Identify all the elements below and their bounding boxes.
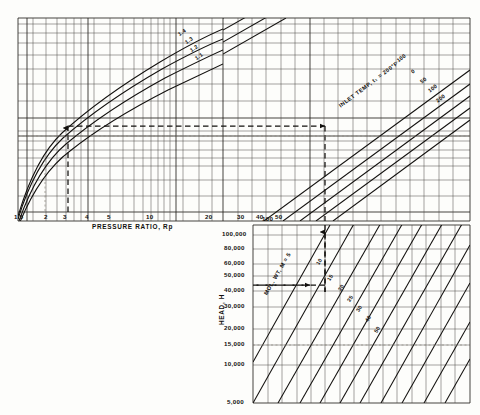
tick-pressure-ratio-1: 1.5 [14,214,24,220]
tick-pressure-ratio-10: 10 [146,214,153,220]
tick-head-60000: 60,000 [224,260,245,266]
tick-head-80000: 80,000 [224,245,245,251]
tick-pressure-ratio-50: 50 [275,214,282,220]
tick-head-15000: 15,000 [224,341,245,347]
nomograph-graphics [0,0,480,415]
inlet-temp-curves [223,4,470,221]
head-axis-title: HEAD, H [219,294,225,325]
tick-head-5000: 5,000 [227,399,244,405]
tick-pressure-ratio-3: 3 [63,214,67,220]
nomograph-figure: 1.5 2 3 4 5 10 20 30 40 50 100 PRESSURE … [0,0,480,415]
tick-head-100000: 100,000 [222,231,246,237]
pressure-ratio-curves [18,29,223,222]
tick-head-panel-top-100: 100 [262,216,273,222]
tick-head-10000: 10,000 [224,361,245,367]
tick-pressure-ratio-20: 20 [205,214,212,220]
pressure-ratio-axis-title: PRESSURE RATIO, Rp [92,224,173,230]
tick-head-30000: 30,000 [224,303,245,309]
tick-pressure-ratio-4: 4 [85,214,89,220]
tick-head-20000: 20,000 [224,325,245,331]
tick-head-50000: 50,000 [224,272,245,278]
tick-pressure-ratio-5: 5 [107,214,111,220]
tick-head-40000: 40,000 [224,287,245,293]
tick-pressure-ratio-2: 2 [44,214,48,220]
worked-example-path [68,126,325,292]
tick-pressure-ratio-30: 30 [237,214,244,220]
